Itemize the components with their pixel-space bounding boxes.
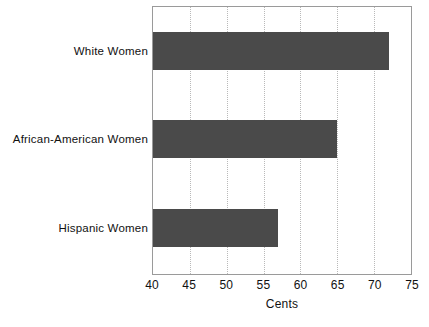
plot-area <box>152 6 412 275</box>
category-label-text: Hispanic Women <box>58 222 148 234</box>
xtick-label-55: 55 <box>243 278 283 292</box>
xtick-label-75: 75 <box>392 278 429 292</box>
xtick-label-70: 70 <box>355 278 395 292</box>
bar-african-american-women <box>153 120 337 158</box>
figure: White Women African-American Women Hispa… <box>0 0 429 327</box>
x-axis-title: Cents <box>152 297 412 311</box>
xtick-label-50: 50 <box>206 278 246 292</box>
category-label-white-women: White Women <box>0 46 148 58</box>
xtick-label-45: 45 <box>169 278 209 292</box>
xtick-label-40: 40 <box>132 278 172 292</box>
category-label-text: White Women <box>74 45 148 57</box>
category-label-hispanic-women: Hispanic Women <box>0 223 148 235</box>
xtick-label-65: 65 <box>318 278 358 292</box>
figure-caption <box>4 316 304 327</box>
xtick-label-60: 60 <box>281 278 321 292</box>
category-label-text: African-American Women <box>13 133 148 145</box>
bar-white-women <box>153 32 389 70</box>
bar-hispanic-women <box>153 209 278 247</box>
category-label-african-american-women: African-American Women <box>0 134 148 146</box>
